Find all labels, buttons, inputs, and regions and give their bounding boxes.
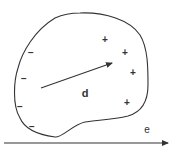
negative-charge: −	[29, 121, 35, 132]
negative-charges: − − − −	[17, 47, 35, 132]
positive-charges: + + + +	[102, 34, 136, 108]
dipole-vector-arrow	[41, 63, 112, 88]
dipole-diagram: − − − − + + + + d e	[0, 0, 176, 153]
negative-charge: −	[21, 73, 27, 84]
field-vector-label: e	[144, 124, 150, 135]
positive-charge: +	[124, 97, 130, 108]
negative-charge: −	[17, 101, 23, 112]
negative-charge: −	[28, 47, 34, 58]
dipole-vector-label: d	[82, 87, 89, 99]
positive-charge: +	[122, 47, 128, 58]
positive-charge: +	[130, 67, 136, 78]
charged-body-outline	[15, 13, 149, 137]
positive-charge: +	[102, 34, 108, 45]
